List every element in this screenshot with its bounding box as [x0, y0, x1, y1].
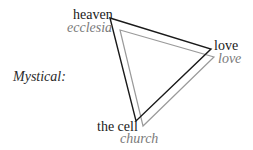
primary-triangle	[110, 18, 211, 121]
vertex-label-church: church	[120, 131, 158, 146]
mystical-triangle-diagram: Mystical: heaven ecclesia love love the …	[0, 0, 253, 150]
vertex-label-ecclesia: ecclesia	[67, 20, 112, 35]
side-label: Mystical:	[12, 69, 66, 84]
vertex-label-love-secondary: love	[218, 51, 241, 66]
